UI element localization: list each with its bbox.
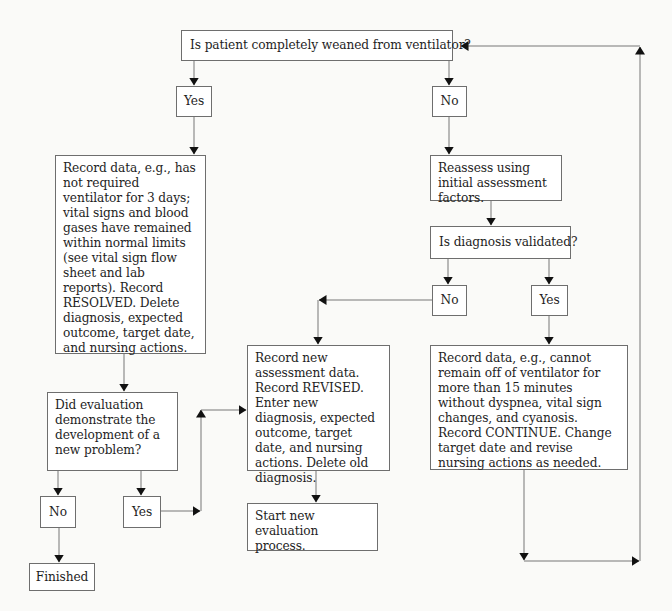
node-new-problem-question: Did evaluation demonstrate the developme… xyxy=(47,392,178,471)
node-diagnosis-validated-question: Is diagnosis validated? xyxy=(430,226,571,259)
node-continue-record: Record data, e.g., cannot remain off of … xyxy=(430,345,628,470)
node-revised-record: Record new assessment data. Record REVIS… xyxy=(247,345,390,471)
node-validated-no: No xyxy=(432,285,467,316)
node-start-new-evaluation: Start new evaluation process. xyxy=(247,503,378,551)
node-weaned-yes: Yes xyxy=(176,86,212,117)
node-new-problem-no: No xyxy=(40,496,76,528)
node-validated-yes: Yes xyxy=(531,285,568,316)
node-resolved-record: Record data, e.g., has not required vent… xyxy=(55,155,206,354)
node-weaned-question: Is patient completely weaned from ventil… xyxy=(181,30,453,61)
node-reassess: Reassess using initial assessment factor… xyxy=(430,155,562,201)
node-weaned-no: No xyxy=(432,86,467,117)
node-new-problem-yes: Yes xyxy=(123,496,161,528)
node-finished: Finished xyxy=(29,563,95,591)
